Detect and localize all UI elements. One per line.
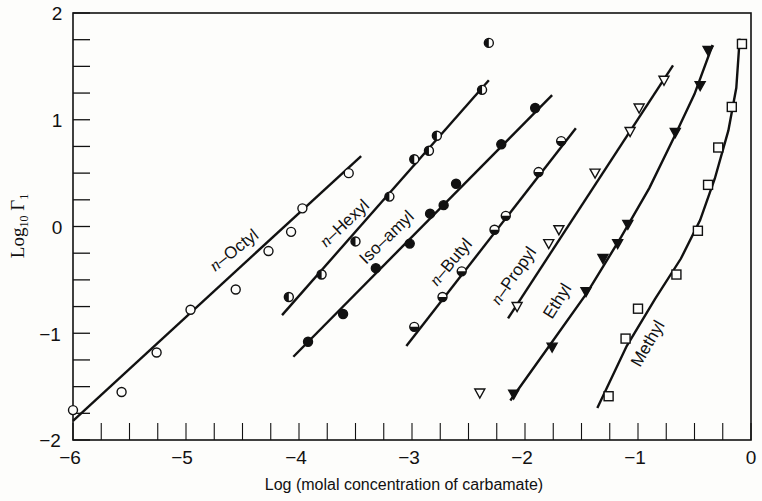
y-tick-label: −2 xyxy=(39,430,61,451)
x-tick-labels: −6 −5 −4 −3 −2 −1 0 xyxy=(59,447,756,468)
y-tick-label: −1 xyxy=(39,324,61,345)
marker-open-circle xyxy=(69,406,78,415)
y-tick-label: 2 xyxy=(52,3,63,24)
marker-filled-circle xyxy=(405,239,414,248)
marker-open-circle xyxy=(287,227,296,236)
marker-filled-triangle-down xyxy=(581,288,591,297)
marker-open-triangle-down xyxy=(590,169,600,178)
marker-half-filled-circle-left xyxy=(385,192,394,201)
marker-half-filled-circle-bottom xyxy=(410,322,419,331)
series-label-methyl: Methyl xyxy=(627,317,668,370)
marker-filled-circle xyxy=(304,337,313,346)
marker-open-square xyxy=(727,102,736,111)
fit-line-methyl xyxy=(597,39,739,408)
x-axis-title: Log (molal concentration of carbamate) xyxy=(265,476,543,493)
marker-filled-circle xyxy=(497,140,506,149)
y-axis-title-sub2: 1 xyxy=(17,194,31,200)
marker-half-filled-circle-bottom xyxy=(534,168,543,177)
marker-filled-triangle-down xyxy=(670,129,680,138)
y-tick-label: 0 xyxy=(52,217,63,238)
marker-filled-triangle-down xyxy=(509,390,519,399)
series-label-n-octyl: n–Octyl xyxy=(206,225,262,275)
x-tick-label: 0 xyxy=(746,447,757,468)
marker-half-filled-circle-left xyxy=(351,237,360,246)
marker-open-square xyxy=(672,270,681,279)
marker-half-filled-circle-bottom xyxy=(501,211,510,220)
marker-half-filled-circle-left xyxy=(410,155,419,164)
marker-filled-circle xyxy=(339,310,348,319)
fit-line-ethyl xyxy=(510,45,712,400)
chart: 2 1 0 −1 −2 −6 −5 −4 −3 −2 −1 0 Log (mol… xyxy=(0,0,762,501)
marker-half-filled-circle-bottom xyxy=(438,292,447,301)
marker-open-circle xyxy=(264,247,273,256)
marker-filled-circle xyxy=(426,209,435,218)
marker-open-square xyxy=(704,180,713,189)
x-axis-ticks xyxy=(73,423,751,440)
marker-filled-circle xyxy=(439,201,448,210)
marker-filled-circle xyxy=(531,104,540,113)
marker-open-circle xyxy=(186,305,195,314)
marker-open-square xyxy=(604,392,613,401)
x-tick-label: −2 xyxy=(511,447,533,468)
marker-half-filled-circle-bottom xyxy=(490,225,499,234)
series-label-n-propyl: n–Propyl xyxy=(487,243,541,308)
marker-half-filled-circle-left xyxy=(478,85,487,94)
marker-open-circle xyxy=(231,285,240,294)
y-axis-title-gamma: Γ xyxy=(7,200,28,211)
marker-half-filled-circle-bottom xyxy=(557,137,566,146)
svg-text:Log10 Γ1: Log10 Γ1 xyxy=(7,194,31,258)
marker-open-square xyxy=(737,39,746,48)
x-tick-label: −1 xyxy=(624,447,646,468)
y-tick-labels: 2 1 0 −1 −2 xyxy=(39,3,62,451)
y-axis-ticks xyxy=(73,13,90,440)
series-label-n-butyl: n–Butyl xyxy=(426,235,476,290)
marker-half-filled-circle-bottom xyxy=(457,267,466,276)
y-axis-title: Log10 Γ1 xyxy=(7,194,31,258)
marker-half-filled-circle-left xyxy=(284,292,293,301)
marker-open-circle xyxy=(298,204,307,213)
marker-filled-circle xyxy=(371,264,380,273)
marker-half-filled-circle-left xyxy=(484,38,493,47)
marker-open-square xyxy=(634,304,643,313)
marker-open-circle xyxy=(117,387,126,396)
x-tick-label: −3 xyxy=(398,447,420,468)
marker-open-triangle-down xyxy=(475,389,485,398)
marker-open-square xyxy=(693,226,702,235)
marker-half-filled-circle-left xyxy=(317,270,326,279)
x-tick-label: −5 xyxy=(171,447,193,468)
marker-open-triangle-down xyxy=(544,240,554,249)
x-tick-label: −4 xyxy=(285,447,307,468)
plot-frame xyxy=(73,13,751,440)
marker-open-circle xyxy=(344,169,353,178)
fit-line-n-octyl xyxy=(73,156,361,421)
x-tick-label: −6 xyxy=(59,447,81,468)
marker-open-square xyxy=(621,334,630,343)
marker-open-square xyxy=(714,143,723,152)
y-axis-title-log: Log xyxy=(7,227,28,258)
y-tick-label: 1 xyxy=(52,110,63,131)
marker-filled-triangle-down xyxy=(623,220,633,229)
y-axis-title-sub: 10 xyxy=(17,216,31,228)
marker-open-circle xyxy=(152,348,161,357)
marker-filled-circle xyxy=(452,179,461,188)
marker-half-filled-circle-left xyxy=(432,131,441,140)
marker-half-filled-circle-left xyxy=(424,146,433,155)
